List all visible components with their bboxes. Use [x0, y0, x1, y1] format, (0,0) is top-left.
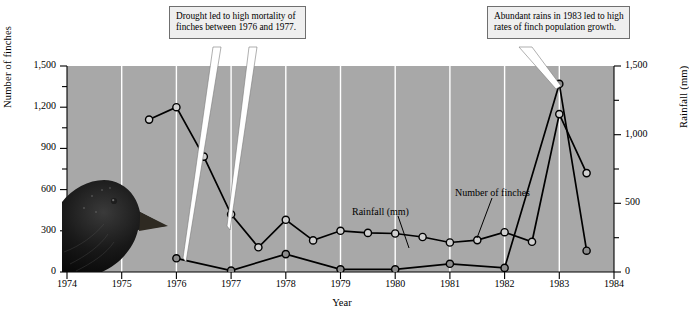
data-point-finches: [501, 229, 508, 236]
data-point-finches: [173, 104, 180, 111]
data-point-finches: [392, 230, 399, 237]
data-point-finches: [337, 227, 344, 234]
data-point-rainfall: [282, 251, 289, 258]
series-label-finches: Number of finches: [455, 187, 530, 198]
data-point-finches: [364, 229, 371, 236]
left-axis-ticks: [60, 66, 67, 272]
data-point-rainfall: [173, 255, 180, 262]
data-point-finches: [528, 238, 535, 245]
data-point-finches: [310, 237, 317, 244]
x-axis-ticks: [67, 272, 614, 279]
data-point-finches: [583, 170, 590, 177]
data-point-rainfall: [583, 247, 590, 254]
data-point-finches: [446, 239, 453, 246]
data-point-finches: [556, 111, 563, 118]
right-axis-ticks: [614, 66, 621, 272]
data-point-rainfall: [392, 266, 399, 273]
data-point-finches: [255, 244, 262, 251]
data-point-rainfall: [501, 264, 508, 271]
data-point-finches: [419, 233, 426, 240]
series-label-rainfall: Rainfall (mm): [352, 206, 409, 217]
data-point-finches: [282, 216, 289, 223]
callout-rains: Abundant rains in 1983 led to high rates…: [487, 6, 630, 39]
data-point-finches: [146, 116, 153, 123]
callout-drought: Drought led to high mortality of finches…: [169, 6, 306, 39]
data-point-rainfall: [337, 266, 344, 273]
data-point-rainfall: [446, 260, 453, 267]
